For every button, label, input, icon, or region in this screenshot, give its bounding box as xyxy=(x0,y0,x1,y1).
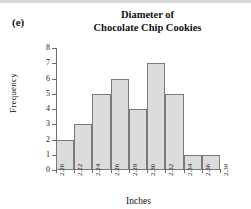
y-axis-tick-label: 4 xyxy=(30,105,50,113)
histogram-plot: 012345678 Frequency 2.202.222.242.262.28… xyxy=(0,0,251,209)
histogram-bars xyxy=(56,48,220,170)
x-axis-tick xyxy=(56,169,57,173)
x-axis-title: Inches xyxy=(56,196,221,206)
x-axis-tick xyxy=(129,169,130,173)
y-axis-tick-labels: 012345678 xyxy=(26,0,50,209)
x-axis-tick-label: 2.28 xyxy=(132,164,139,176)
y-axis-title: Frequency xyxy=(8,61,18,125)
y-axis-tick-label: 0 xyxy=(30,166,50,174)
x-axis-tick-label: 2.38 xyxy=(223,164,230,176)
histogram-bar xyxy=(129,109,147,170)
x-axis-tick-label: 2.24 xyxy=(95,164,102,176)
y-axis-tick-label: 5 xyxy=(30,90,50,98)
x-axis-tick xyxy=(147,169,148,173)
x-axis-tick-label: 2.22 xyxy=(77,164,84,176)
histogram-bar xyxy=(165,94,183,170)
x-axis-tick-label: 2.36 xyxy=(205,164,212,176)
y-axis-tick-label: 6 xyxy=(30,75,50,83)
x-axis-tick-label: 2.34 xyxy=(187,164,194,176)
y-axis-tick-label: 2 xyxy=(30,136,50,144)
x-axis-tick xyxy=(111,169,112,173)
y-axis-tick-label: 7 xyxy=(30,59,50,67)
x-axis-tick-label: 2.30 xyxy=(150,164,157,176)
x-axis-tick-label: 2.20 xyxy=(59,164,66,176)
x-axis-tick-label: 2.32 xyxy=(168,164,175,176)
x-axis-tick xyxy=(220,169,221,173)
y-axis-tick-label: 8 xyxy=(30,44,50,52)
x-axis-tick-label: 2.26 xyxy=(114,164,121,176)
x-axis-tick xyxy=(202,169,203,173)
histogram-bar xyxy=(92,94,110,170)
x-axis-tick xyxy=(184,169,185,173)
y-axis-tick-label: 1 xyxy=(30,151,50,159)
histogram-bar xyxy=(111,79,129,171)
y-axis-tick-label: 3 xyxy=(30,120,50,128)
histogram-bar xyxy=(147,63,165,170)
